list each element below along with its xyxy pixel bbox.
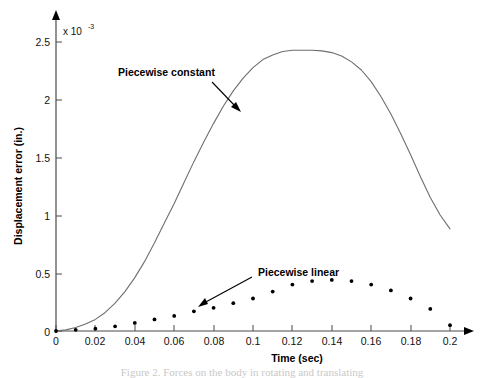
data-point	[350, 279, 354, 283]
y-axis-title: Displacement error (in.)	[12, 127, 24, 245]
y-tick-label-3: 1.5	[35, 152, 50, 164]
data-point	[153, 318, 157, 322]
x-tick-label-0: 0	[53, 335, 59, 347]
y-tick-label-4: 2	[44, 94, 50, 106]
figure-container: 2.5 2 1.5 1 0.5 0 x 10 -3 Displacement e…	[0, 0, 485, 378]
data-point	[113, 324, 117, 328]
data-point	[271, 290, 275, 294]
y-tick-label-5: 2.5	[35, 36, 50, 48]
annotation-label-piecewise-linear: Piecewise linear	[258, 266, 339, 278]
y-exponent-base: x 10	[63, 26, 82, 37]
data-point	[231, 301, 235, 305]
data-point	[54, 329, 58, 333]
data-point	[172, 314, 176, 318]
data-point	[409, 297, 413, 301]
annotation-label-piecewise-constant: Piecewise constant	[118, 66, 215, 78]
displacement-error-chart: 2.5 2 1.5 1 0.5 0 x 10 -3 Displacement e…	[0, 0, 485, 378]
data-point	[192, 309, 196, 313]
data-point	[369, 283, 373, 287]
x-tick-label-4: 0.08	[204, 335, 225, 347]
data-point	[94, 327, 98, 331]
figure-caption: Figure 2. Forces on the body in rotating…	[121, 366, 364, 378]
x-tick-label-6: 0.12	[282, 335, 303, 347]
annotation-piecewise-linear: Piecewise linear	[198, 266, 339, 307]
x-tick-label-1: 0.02	[85, 335, 106, 347]
data-point	[74, 328, 78, 332]
data-point	[212, 306, 216, 310]
x-tick-label-8: 0.16	[361, 335, 382, 347]
annotation-leader-line-0	[212, 82, 236, 107]
x-axis-title: Time (sec)	[271, 352, 323, 364]
data-point	[251, 297, 255, 301]
x-axis-tick-labels: 0 0.02 0.04 0.06 0.08 0.1 0.12 0.14 0.16…	[53, 335, 457, 347]
y-axis-arrow-icon	[52, 10, 60, 20]
data-point	[428, 307, 432, 311]
y-axis-tick-labels: 2.5 2 1.5 1 0.5 0	[35, 36, 50, 338]
x-tick-label-9: 0.18	[401, 335, 422, 347]
data-point	[310, 279, 314, 283]
y-axis-exponent-label: x 10 -3	[63, 23, 94, 37]
y-tick-label-0: 0	[44, 326, 50, 338]
x-tick-label-3: 0.06	[164, 335, 185, 347]
y-tick-label-1: 0.5	[35, 268, 50, 280]
y-axis	[52, 10, 60, 333]
x-tick-label-10: 0.2	[443, 335, 458, 347]
y-exponent-power: -3	[88, 23, 94, 30]
y-tick-label-2: 1	[44, 210, 50, 222]
annotation-arrow-icon-1	[198, 298, 208, 307]
data-point	[389, 289, 393, 293]
y-axis-ticks	[56, 42, 62, 331]
annotation-piecewise-constant: Piecewise constant	[118, 66, 241, 112]
x-axis-arrow-icon	[464, 327, 474, 335]
x-tick-label-2: 0.04	[125, 335, 146, 347]
data-point	[448, 323, 452, 327]
series-dots-piecewise-linear	[54, 278, 452, 333]
data-point	[330, 278, 334, 282]
x-tick-label-5: 0.1	[246, 335, 261, 347]
annotation-leader-line-1	[204, 277, 252, 303]
data-point	[133, 321, 137, 325]
data-point	[291, 283, 295, 287]
x-tick-label-7: 0.14	[322, 335, 343, 347]
